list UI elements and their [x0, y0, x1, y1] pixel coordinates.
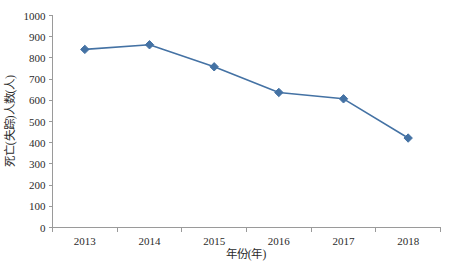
chart-container: 01002003004005006007008009001000 2013201…: [0, 0, 449, 278]
y-tick-label: 1000: [24, 10, 47, 22]
y-axis-title: 死亡(失踪)人数(人): [3, 75, 17, 167]
x-tick-label: 2015: [203, 235, 226, 247]
y-tick-label: 500: [29, 116, 46, 128]
y-tick-label: 0: [40, 222, 46, 234]
caption-ghost-text: [0, 268, 449, 278]
line-chart: 01002003004005006007008009001000 2013201…: [0, 0, 449, 278]
x-axis-title: 年份(年): [226, 247, 267, 261]
y-tick-label: 400: [29, 137, 46, 149]
y-tick-label: 700: [29, 73, 46, 85]
y-tick-label: 600: [29, 94, 46, 106]
y-tick-label: 100: [29, 200, 46, 212]
x-tick-label: 2018: [397, 235, 420, 247]
y-tick-label: 800: [29, 52, 46, 64]
y-tick-label: 900: [29, 31, 46, 43]
x-tick-label: 2016: [268, 235, 291, 247]
x-tick-label: 2014: [139, 235, 162, 247]
y-tick-label: 200: [29, 179, 46, 191]
x-tick-label: 2017: [333, 235, 356, 247]
y-tick-label: 300: [29, 158, 46, 170]
x-tick-label: 2013: [74, 235, 97, 247]
